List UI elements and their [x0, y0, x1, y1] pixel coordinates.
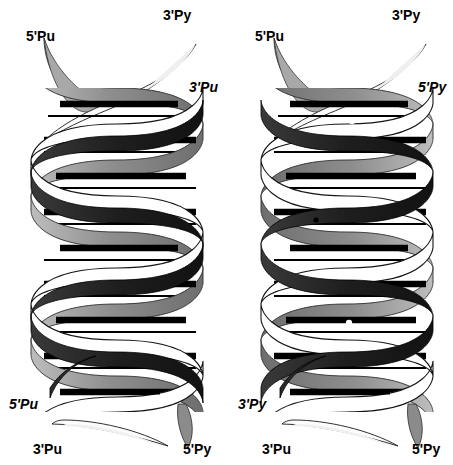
- label-left-top-3py: 3'Py: [163, 7, 191, 23]
- marker-dot-3: [346, 320, 352, 326]
- label-right-top-3py: 3'Py: [392, 7, 420, 23]
- label-right-top-5pu: 5'Pu: [255, 28, 284, 44]
- label-right-bottom-5py: 5'Py: [412, 441, 440, 457]
- label-right-bottom-3py: 3'Py: [238, 396, 266, 412]
- marker-dot-1: [349, 118, 355, 124]
- label-left-bottom-5pu: 5'Pu: [9, 396, 38, 412]
- label-right-top-5py: 5'Py: [418, 79, 446, 95]
- label-left-bottom-5py: 5'Py: [183, 441, 211, 457]
- label-right-bottom-3pu: 3'Pu: [262, 441, 291, 457]
- label-left-top-3pu: 3'Pu: [189, 79, 218, 95]
- label-left-top-5pu: 5'Pu: [26, 28, 55, 44]
- dna-triple-helix-figure: [0, 0, 453, 465]
- label-left-bottom-3pu: 3'Pu: [33, 441, 62, 457]
- marker-dot-2: [313, 217, 318, 222]
